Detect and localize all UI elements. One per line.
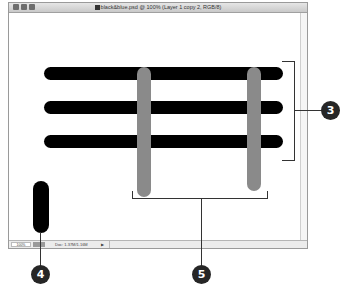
bracket-3-bottom xyxy=(282,160,295,161)
bracket-3-spine xyxy=(294,61,295,161)
window-title-text: black&blue.psd @ 100% (Layer 1 copy 2, R… xyxy=(101,4,222,10)
black-pill-shape xyxy=(33,181,49,233)
callout-3: 3 xyxy=(321,101,340,120)
callout-5-leader xyxy=(201,199,202,267)
status-menu-arrow-icon[interactable]: ▶ xyxy=(101,241,104,248)
callout-5: 5 xyxy=(192,265,211,284)
document-size-info: Doc: 1.37M/1.16M xyxy=(55,241,88,248)
document-icon xyxy=(95,5,100,10)
horizontal-scrollbar[interactable] xyxy=(109,241,307,248)
status-preview-icon xyxy=(33,242,45,247)
bracket-5-right xyxy=(267,191,268,199)
callout-4-leader xyxy=(40,232,41,268)
title-bar[interactable]: black&blue.psd @ 100% (Layer 1 copy 2, R… xyxy=(9,3,307,13)
status-bar: 100% Doc: 1.37M/1.16M ▶ xyxy=(9,240,307,248)
document-window: black&blue.psd @ 100% (Layer 1 copy 2, R… xyxy=(8,2,308,249)
bracket-5-spine xyxy=(132,198,268,199)
gray-vertical-bar xyxy=(137,67,151,197)
window-title: black&blue.psd @ 100% (Layer 1 copy 2, R… xyxy=(9,3,307,12)
gray-vertical-bar xyxy=(247,67,261,191)
vertical-scrollbar[interactable] xyxy=(300,13,307,240)
callout-4: 4 xyxy=(31,265,50,284)
zoom-level-field[interactable]: 100% xyxy=(11,242,31,247)
